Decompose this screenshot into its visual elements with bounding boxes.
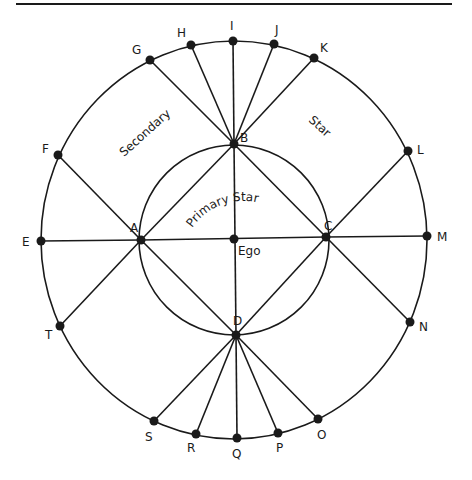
edge-D-Q: [236, 335, 237, 438]
node-g: [146, 56, 155, 65]
node-p: [274, 429, 283, 438]
primary-star-text: Primary Star: [183, 190, 260, 230]
edge-A-F: [58, 155, 141, 240]
node-label-o: O: [317, 428, 326, 442]
node-label-e: E: [22, 235, 30, 249]
edge-A-B: [141, 144, 234, 240]
node-label-r: R: [187, 441, 195, 455]
node-o: [314, 415, 323, 424]
node-t: [56, 322, 65, 331]
diagram-canvas: ABCDEgoEFGHIJKLMNOPQRST Secondary Star P…: [0, 0, 472, 480]
node-label-g: G: [132, 43, 141, 57]
node-label-h: H: [177, 26, 186, 40]
node-c: [322, 233, 331, 242]
node-r: [192, 430, 201, 439]
node-label-m: M: [437, 230, 447, 244]
edge-B-J: [234, 44, 274, 144]
primary-star-label: Primary Star: [183, 190, 260, 230]
edge-D-R: [196, 335, 236, 434]
node-j: [270, 40, 279, 49]
node-label-f: F: [42, 142, 49, 156]
edge-D-S: [154, 335, 236, 421]
node-b: [230, 140, 239, 149]
node-m: [423, 232, 432, 241]
node-l: [404, 147, 413, 156]
node-label-p: P: [276, 441, 283, 455]
edge-C-N: [326, 237, 410, 322]
node-label-t: T: [44, 328, 53, 342]
node-ego: [230, 235, 239, 244]
node-label-b: B: [240, 131, 248, 145]
edge-B-G: [150, 60, 234, 144]
node-label-d: D: [233, 314, 242, 328]
edge-D-A: [141, 240, 236, 335]
node-e: [37, 237, 46, 246]
node-n: [406, 318, 415, 327]
star-diagram: ABCDEgoEFGHIJKLMNOPQRST Secondary Star P…: [0, 0, 472, 480]
node-label-ego: Ego: [238, 244, 261, 258]
edge-A-T: [60, 240, 141, 326]
node-label-a: A: [130, 221, 139, 235]
node-i: [229, 37, 238, 46]
node-label-q: Q: [232, 447, 241, 461]
secondary-label: Secondary: [117, 106, 174, 159]
node-k: [310, 54, 319, 63]
node-label-l: L: [417, 143, 424, 157]
edge-C-M: [326, 236, 427, 237]
edge-B-H: [191, 45, 234, 144]
edge-A-E: [41, 240, 141, 241]
edge-C-L: [326, 151, 408, 237]
node-s: [150, 417, 159, 426]
edge-D-O: [236, 335, 318, 419]
edge-D-P: [236, 335, 278, 433]
node-q: [233, 434, 242, 443]
node-label-c: C: [324, 219, 332, 233]
node-f: [54, 151, 63, 160]
node-label-s: S: [145, 430, 153, 444]
node-label-i: I: [230, 19, 234, 33]
node-a: [137, 236, 146, 245]
edge-B-I: [233, 41, 234, 144]
node-label-k: K: [320, 41, 329, 55]
secondary-star-label: Star: [306, 113, 334, 140]
node-label-n: N: [419, 320, 428, 334]
node-label-j: J: [274, 23, 279, 37]
node-d: [232, 331, 241, 340]
node-h: [187, 41, 196, 50]
